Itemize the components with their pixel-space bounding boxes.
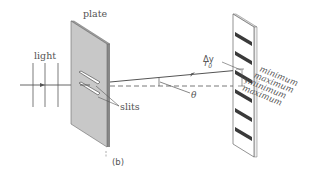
plate — [71, 21, 110, 147]
ray-r0 — [110, 70, 240, 82]
panel-label: (b) — [112, 157, 124, 167]
delta-y-label: Δy — [203, 54, 214, 64]
theta-marker — [159, 78, 190, 93]
beam-arrow-icon — [40, 83, 45, 87]
theta-label: θ — [191, 90, 197, 100]
plate-label: plate — [83, 8, 108, 19]
slits-label: slits — [120, 101, 140, 112]
light-label: light — [34, 50, 56, 61]
double-slit-diagram: light plate slits (b) r0 — [0, 0, 311, 173]
